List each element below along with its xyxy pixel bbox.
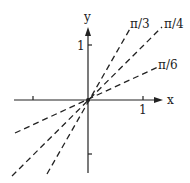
y-axis-arrow-icon (85, 27, 91, 36)
origin-point (86, 98, 90, 102)
x-tick-label: 1 (139, 103, 147, 117)
y-tick-label: 1 (77, 39, 85, 53)
x-axis-label: x (167, 93, 174, 107)
coordinate-diagram: y x 1 1 π/3 π/4 π/6 (0, 0, 190, 183)
label-pi-3: π/3 (130, 17, 150, 31)
y-axis-label: y (83, 10, 91, 24)
label-pi-4: π/4 (164, 17, 184, 31)
x-axis-arrow-icon (154, 97, 163, 103)
label-pi-6: π/6 (158, 58, 178, 72)
